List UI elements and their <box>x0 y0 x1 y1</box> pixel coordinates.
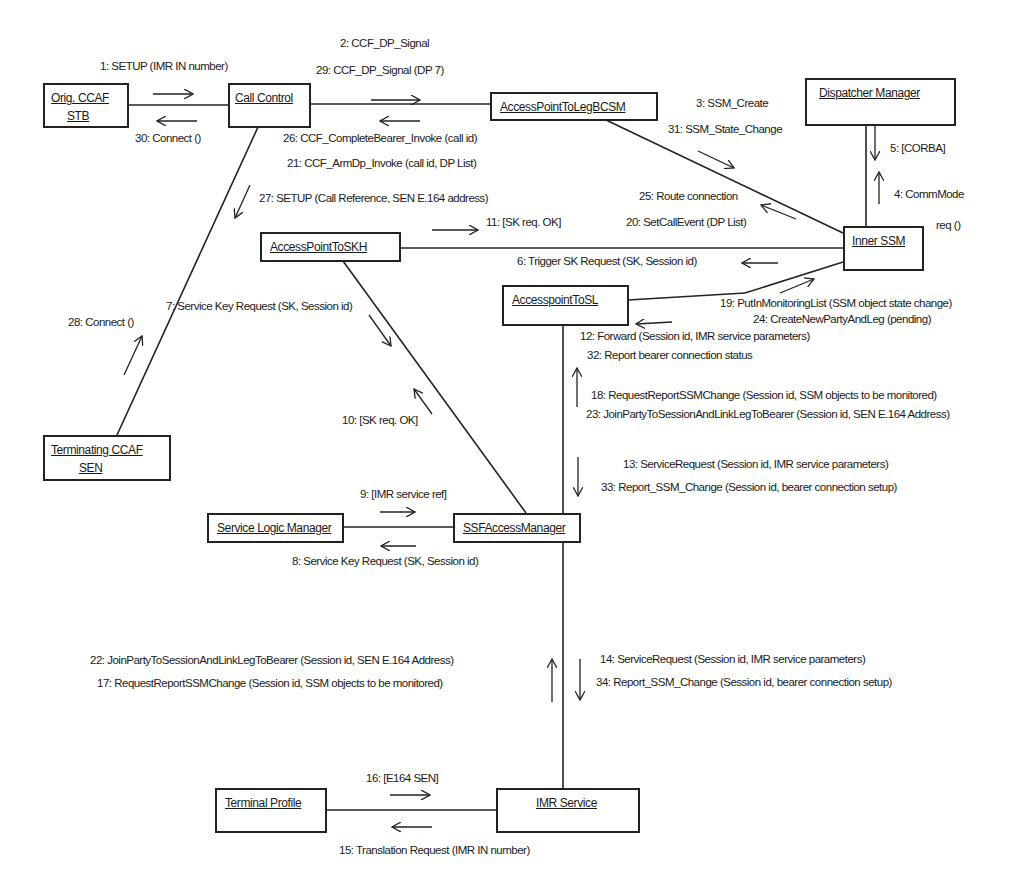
message-25: 25: Route connection <box>639 190 738 202</box>
message-6: 6: Trigger SK Request (SK, Session id) <box>517 255 697 267</box>
message-7: 7: Service Key Request (SK, Session id) <box>166 300 352 312</box>
object-orig-ccaf-stb[interactable]: Orig. CCAF STB <box>43 83 129 128</box>
message-13: 13: ServiceRequest (Session id, IMR serv… <box>623 458 888 470</box>
message-2: 2: CCF_DP_Signal <box>340 37 429 49</box>
object-sublabel: STB <box>67 109 89 123</box>
object-call-control[interactable]: Call Control <box>228 83 311 128</box>
message-10: 10: [SK req. OK] <box>342 414 418 426</box>
object-label: Dispatcher Manager <box>819 86 920 100</box>
message-19: 19: PutInMonitoringList (SSM object stat… <box>720 297 952 309</box>
message-5: 5: [CORBA] <box>890 142 945 154</box>
message-34: 34: Report_SSM_Change (Session id, beare… <box>596 676 892 688</box>
message-15: 15: Translation Request (IMR IN number) <box>339 844 530 856</box>
object-label: IMR Service <box>536 796 597 810</box>
message-14: 14: ServiceRequest (Session id, IMR serv… <box>600 653 865 665</box>
object-dispatcher-manager[interactable]: Dispatcher Manager <box>805 78 956 126</box>
object-terminating-ccaf-sen[interactable]: Terminating CCAF SEN <box>43 435 171 481</box>
object-label: AccessPointToSKH <box>270 240 367 254</box>
message-18: 18: RequestReportSSMChange (Session id, … <box>591 389 937 401</box>
message-24: 24: CreateNewPartyAndLeg (pending) <box>753 313 931 325</box>
message-30: 30: Connect () <box>135 132 201 144</box>
object-label: Call Control <box>235 91 293 105</box>
object-label: Inner SSM <box>852 234 905 248</box>
message-4: 4: CommMode <box>894 188 964 200</box>
message-33: 33: Report_SSM_Change (Session id, beare… <box>601 481 897 493</box>
message-22: 22: JoinPartyToSessionAndLinkLegToBearer… <box>90 654 454 666</box>
object-label: Orig. CCAF <box>51 91 109 105</box>
object-label: Terminating CCAF <box>51 443 143 457</box>
object-access-point-to-skh[interactable]: AccessPointToSKH <box>260 232 401 262</box>
object-access-point-to-sl[interactable]: AccesspointToSL <box>502 285 629 326</box>
object-label: AccessPointToLegBCSM <box>500 100 625 114</box>
message-1: 1: SETUP (IMR IN number) <box>100 60 228 72</box>
object-label: AccesspointToSL <box>512 293 598 307</box>
message-31: 31: SSM_State_Change <box>668 123 782 135</box>
message-32: 32: Report bearer connection status <box>587 349 752 361</box>
message-9: 9: [IMR service ref] <box>360 488 447 500</box>
object-ssf-access-manager[interactable]: SSFAccessManager <box>453 513 581 543</box>
message-20: 20: SetCallEvent (DP List) <box>626 216 746 228</box>
message-27: 27: SETUP (Call Reference, SEN E.164 add… <box>259 192 488 204</box>
object-inner-ssm[interactable]: Inner SSM <box>843 226 924 271</box>
message-21: 21: CCF_ArmDp_Invoke (call id, DP List) <box>287 157 476 169</box>
object-label: SSFAccessManager <box>463 521 565 535</box>
message-16: 16: [E164 SEN] <box>366 772 438 784</box>
object-imr-service[interactable]: IMR Service <box>496 788 640 833</box>
object-access-point-to-leg-bcsm[interactable]: AccessPointToLegBCSM <box>490 92 658 121</box>
message-12: 12: Forward (Session id, IMR service par… <box>580 330 810 342</box>
object-sublabel: SEN <box>79 461 102 475</box>
message-3: 3: SSM_Create <box>696 97 768 109</box>
message-29: 29: CCF_DP_Signal (DP 7) <box>316 64 444 76</box>
message-11: 11: [SK req. OK] <box>486 216 561 228</box>
object-label: Terminal Profile <box>225 796 301 810</box>
object-service-logic-manager[interactable]: Service Logic Manager <box>207 513 344 543</box>
message-23: 23: JoinPartyToSessionAndLinkLegToBearer… <box>586 408 950 420</box>
message-17: 17: RequestReportSSMChange (Session id, … <box>97 677 443 689</box>
object-label: Service Logic Manager <box>217 521 331 535</box>
message-4-cont: req () <box>936 219 960 231</box>
object-terminal-profile[interactable]: Terminal Profile <box>215 788 327 833</box>
message-26: 26: CCF_CompleteBearer_Invoke (call id) <box>283 132 477 144</box>
message-8: 8: Service Key Request (SK, Session id) <box>292 555 478 567</box>
message-28: 28: Connect () <box>68 316 134 328</box>
